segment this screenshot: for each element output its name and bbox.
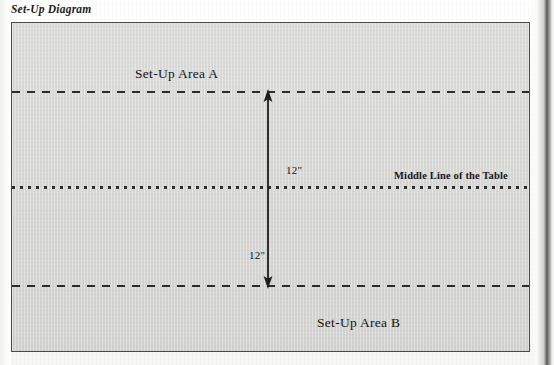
page-gutter-left	[0, 0, 11, 365]
dimension-label-lower: 12"	[249, 249, 265, 261]
dimension-label-upper: 12"	[286, 164, 302, 176]
zone-label-set-up-area-a: Set-Up Area A	[135, 66, 218, 82]
diagram-panel: Set-Up Area A Middle Line of the Table 1…	[11, 22, 530, 352]
zone-label-set-up-area-b: Set-Up Area B	[317, 315, 400, 331]
middle-line-label: Middle Line of the Table	[394, 170, 508, 181]
figure-page: Set-Up Diagram Set-Up Area A Middle Line…	[0, 0, 554, 365]
page-edge-shadow	[530, 0, 554, 365]
figure-caption: Set-Up Diagram	[11, 3, 91, 15]
